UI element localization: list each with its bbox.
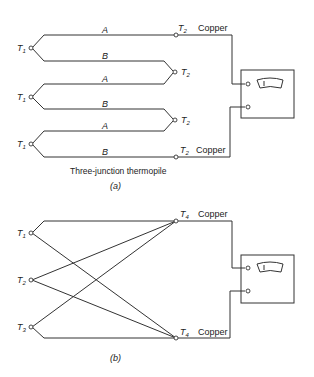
hot-junction-1: T2 <box>178 23 187 36</box>
figure-a-caption: Three-junction thermopile <box>70 166 166 176</box>
ref-junction-bottom: T4 <box>180 327 189 340</box>
wire-label-a3: A <box>102 121 108 131</box>
ref-junction-top: T4 <box>180 209 189 222</box>
junction-t2: T2 <box>17 275 26 288</box>
hot-junction-4: T2 <box>180 145 189 158</box>
cold-junction-1: T1 <box>17 43 26 56</box>
copper-lead-bottom-b: Copper <box>198 327 228 337</box>
copper-lead-top-a: Copper <box>198 23 228 33</box>
copper-lead-top-b: Copper <box>198 209 228 219</box>
wire-label-b1: B <box>102 51 108 61</box>
circuit-lines <box>0 0 314 377</box>
hot-junction-2: T2 <box>181 67 190 80</box>
copper-lead-bottom-a: Copper <box>196 145 226 155</box>
wire-label-b3: B <box>102 147 108 157</box>
wire-label-a2: A <box>102 74 108 84</box>
hot-junction-3: T2 <box>181 115 190 128</box>
cold-junction-2: T1 <box>17 92 26 105</box>
wire-label-b2: B <box>102 99 108 109</box>
wire-label-a1: A <box>102 25 108 35</box>
figure-a-label: (a) <box>110 181 121 191</box>
junction-t3: T3 <box>17 322 26 335</box>
thermocouple-diagram: A B A B A B T1 T1 T1 T2 T2 T2 T2 Copper … <box>0 0 314 377</box>
cold-junction-3: T1 <box>17 139 26 152</box>
figure-b-label: (b) <box>110 353 121 363</box>
junction-t1: T1 <box>17 228 26 241</box>
